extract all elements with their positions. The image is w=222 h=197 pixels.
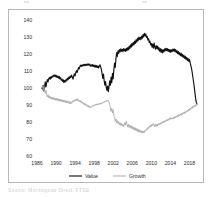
y-tick-label: 100 [24,85,33,91]
y-tick-label: 110 [24,68,32,74]
chart-legend: ValueGrowth [69,173,146,179]
figure-container: 60708090100110120130140 1986199019941998… [0,0,222,197]
x-tick-label: 1986 [31,160,42,166]
series-line-growth [42,86,197,133]
chart-plot-frame: 60708090100110120130140 1986199019941998… [8,9,204,183]
x-tick-label: 2010 [146,160,157,166]
legend-label-value: Value [85,173,98,179]
y-tick-label: 60 [26,153,32,159]
y-tick-label: 130 [24,34,33,40]
legend-label-growth: Growth [129,173,146,179]
x-tick-label: 2014 [165,160,176,166]
y-tick-label: 80 [26,119,32,125]
top-margin-smudge-right [142,1,147,3]
y-tick-label: 120 [24,51,33,57]
x-tick-label: 2018 [184,160,195,166]
series-line-value [42,33,197,104]
source-caption: Source: Morningstar Direct, FTSE [8,187,158,193]
series-lines [42,33,197,133]
x-axis-tick-labels: 198619901994199820022006201020142018 [31,160,195,166]
x-tick-label: 2006 [127,160,138,166]
x-tick-label: 2002 [108,160,119,166]
y-tick-label: 140 [24,17,33,23]
line-chart: 60708090100110120130140 1986199019941998… [9,10,205,184]
x-tick-label: 1990 [50,160,61,166]
y-tick-label: 90 [26,102,32,108]
top-margin-smudge-left [24,1,29,3]
y-tick-label: 70 [26,136,32,142]
y-axis-tick-labels: 60708090100110120130140 [24,17,33,159]
x-tick-label: 1994 [69,160,80,166]
x-tick-label: 1998 [89,160,100,166]
